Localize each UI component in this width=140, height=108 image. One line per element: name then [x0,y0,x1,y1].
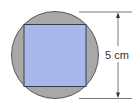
diagram-canvas: 5 cm [0,0,140,108]
dimension-label: 5 cm [105,49,129,61]
inscribed-square [24,25,86,87]
arrow-up-icon [116,13,120,19]
arrow-down-icon [116,93,120,99]
